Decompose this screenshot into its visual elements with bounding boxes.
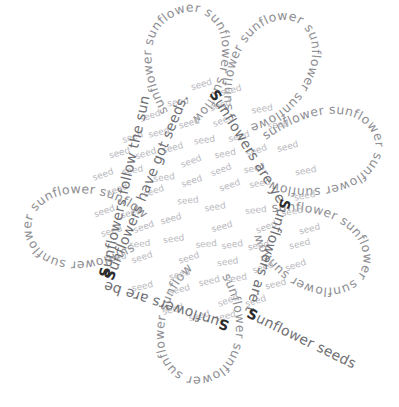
seed-word: seed — [195, 238, 217, 250]
seed-word: seed — [180, 173, 204, 190]
petal-top-left: sunflower sunflower sunflower sunflower … — [0, 0, 234, 127]
seed-word: seed — [177, 250, 201, 266]
seed-word: seed — [162, 232, 185, 245]
seed-word: seed — [91, 166, 115, 182]
seed-word: seed — [214, 147, 237, 161]
petal-word-run: sunflower sunflower sunflower sunflower … — [0, 0, 234, 127]
sentence-beautiful: Sunflowers are beautiful. — [0, 0, 231, 334]
seed-word: seed — [204, 200, 227, 213]
sunflower-artwork: sunflower sunflower sunflower sunflower … — [0, 0, 399, 407]
seed-word: seed — [288, 236, 311, 251]
seed-word: seed — [245, 204, 268, 216]
seed-word: seed — [294, 164, 317, 178]
seed-word: seed — [159, 211, 182, 226]
seed-word: seed — [190, 77, 213, 93]
seed-word: seed — [218, 177, 242, 193]
seed-word: seed — [298, 221, 321, 236]
seed-word: seed — [177, 194, 199, 206]
seed-word: seed — [210, 219, 233, 234]
seed-word: seed — [221, 238, 244, 251]
seed-word: seed — [276, 139, 299, 154]
seed-word: seed — [193, 134, 216, 147]
seed-word: seed — [284, 257, 308, 273]
seed-word: seed — [179, 153, 203, 170]
sunflower-word-art-canvas: sunflower sunflower sunflower sunflower … — [0, 0, 399, 407]
seed-word: seed — [216, 255, 239, 268]
seed-word: seed — [209, 161, 233, 178]
seed-word: seed — [198, 274, 221, 288]
petal-word-run: sunflower sunflower sunflower sunflower … — [0, 0, 387, 200]
petal-right-upper: sunflower sunflower sunflower sunflower … — [0, 0, 387, 200]
sentence-run: Sunflowers are beautiful. — [0, 0, 231, 334]
